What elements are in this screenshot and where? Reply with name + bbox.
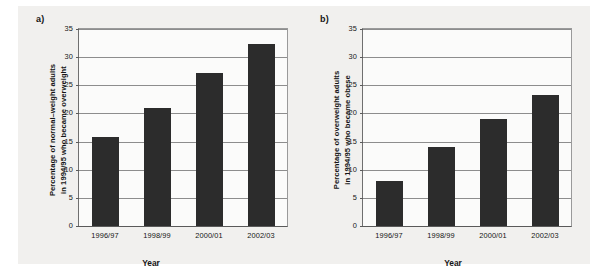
y-axis-title-a-line1: Percentage of normal–weight adults [48,64,57,196]
y-tick-label-b-35: 35 [349,24,357,33]
y-tick-label-a-25: 25 [65,80,73,89]
y-tick-label-b-20: 20 [349,108,357,117]
panel-label-a: a) [36,14,44,24]
y-tick-mark-b-10 [360,170,363,171]
bar-a-1996-97 [92,137,119,226]
gridline-b-35 [363,29,571,30]
gridline-a-35 [79,29,287,30]
x-axis-title-b: Year [302,258,604,268]
chart-panel-a: a) Percentage of normal–weight adults in… [0,0,302,278]
y-tick-label-a-10: 10 [65,165,73,174]
y-tick-mark-b-5 [360,198,363,199]
y-tick-mark-a-15 [76,142,79,143]
y-tick-mark-a-25 [76,85,79,86]
y-tick-mark-a-30 [76,57,79,58]
y-tick-mark-b-0 [360,226,363,227]
y-tick-label-b-5: 5 [353,193,357,202]
y-tick-mark-b-35 [360,29,363,30]
y-tick-label-a-0: 0 [69,221,73,230]
x-tick-label-b-1996-97: 1996/97 [363,231,415,240]
y-tick-mark-b-20 [360,113,363,114]
y-tick-mark-b-15 [360,142,363,143]
gridline-b-30 [363,57,571,58]
x-axis-title-a: Year [0,258,302,268]
y-tick-label-b-15: 15 [349,137,357,146]
bar-a-2002-03 [248,44,275,226]
x-tick-label-a-1996-97: 1996/97 [79,231,131,240]
y-tick-label-a-5: 5 [69,193,73,202]
x-tick-label-a-2000-01: 2000/01 [183,231,235,240]
panel-label-b: b) [320,14,329,24]
y-tick-mark-b-25 [360,85,363,86]
y-tick-mark-a-20 [76,113,79,114]
bar-b-1996-97 [376,181,403,226]
y-tick-label-a-30: 30 [65,52,73,61]
y-tick-label-b-0: 0 [353,221,357,230]
x-tick-label-b-1998-99: 1998/99 [415,231,467,240]
bar-b-1998-99 [428,147,455,226]
y-tick-mark-a-0 [76,226,79,227]
x-tick-label-a-1998-99: 1998/99 [131,231,183,240]
y-axis-title-b-line1: Percentage of overweight adults [332,71,341,189]
y-tick-label-b-10: 10 [349,165,357,174]
plot-area-a: 051015202530351996/971998/992000/012002/… [78,28,288,227]
x-tick-label-b-2002-03: 2002/03 [519,231,571,240]
gridline-b-25 [363,85,571,86]
y-tick-label-b-25: 25 [349,80,357,89]
y-tick-label-b-30: 30 [349,52,357,61]
y-tick-label-a-35: 35 [65,24,73,33]
figure-container: a) Percentage of normal–weight adults in… [0,0,604,278]
y-tick-mark-a-35 [76,29,79,30]
bar-a-1998-99 [144,108,171,226]
chart-panel-b: b) Percentage of overweight adults in 19… [302,0,604,278]
y-tick-label-a-20: 20 [65,108,73,117]
bar-b-2002-03 [532,95,559,226]
bar-b-2000-01 [480,119,507,226]
y-tick-mark-b-30 [360,57,363,58]
x-tick-label-b-2000-01: 2000/01 [467,231,519,240]
bar-a-2000-01 [196,73,223,226]
y-tick-mark-a-5 [76,198,79,199]
y-tick-mark-a-10 [76,170,79,171]
x-tick-label-a-2002-03: 2002/03 [235,231,287,240]
y-tick-label-a-15: 15 [65,137,73,146]
plot-area-b: 051015202530351996/971998/992000/012002/… [362,28,572,227]
